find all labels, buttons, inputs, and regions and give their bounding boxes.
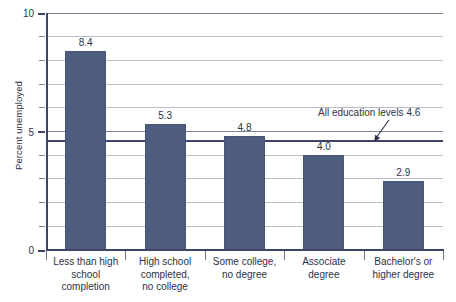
y-tick-4 — [39, 155, 45, 156]
x-tick — [443, 251, 444, 260]
bar — [303, 155, 344, 250]
y-tick-label-5: 5 — [0, 126, 34, 137]
y-tick-8 — [39, 60, 45, 61]
category-label-line: Bachelor's or — [364, 256, 443, 269]
y-tick-0 — [38, 250, 45, 252]
bar — [383, 181, 424, 250]
y-tick-label-10: 10 — [0, 8, 34, 19]
bar-value-label: 5.3 — [135, 110, 195, 121]
category-label: Some college,no degree — [205, 256, 284, 281]
category-label-line: Less than high — [46, 256, 125, 269]
category-label-line: no college — [125, 281, 204, 294]
category-label-line: Associate — [284, 256, 363, 269]
category-label: High schoolcompleted,no college — [125, 256, 204, 294]
category-label: Associatedegree — [284, 256, 363, 281]
category-label-line: degree — [284, 269, 363, 282]
y-tick-6 — [39, 107, 45, 108]
category-label-line: higher degree — [364, 269, 443, 282]
category-label: Less than highschoolcompletion — [46, 256, 125, 294]
y-tick-5 — [38, 131, 45, 133]
bar-value-label: 4.8 — [215, 122, 275, 133]
bar — [65, 51, 106, 250]
y-tick-label-0: 0 — [0, 245, 34, 256]
y-tick-10 — [38, 13, 45, 15]
x-axis-line — [46, 249, 444, 251]
annotation-arrow-icon — [372, 120, 392, 142]
category-label-line: completed, — [125, 269, 204, 282]
reference-line-annotation: All education levels 4.6 — [318, 107, 420, 118]
bar-value-label: 8.4 — [56, 37, 116, 48]
bar — [145, 124, 186, 250]
category-label-line: High school — [125, 256, 204, 269]
category-label-line: no degree — [205, 269, 284, 282]
bar-value-label: 4.0 — [294, 141, 354, 152]
y-axis-line — [46, 13, 48, 251]
bar — [224, 136, 265, 250]
y-tick-9 — [39, 36, 45, 37]
bar-chart: Percent unemployed 0510 Less than highsc… — [0, 0, 456, 302]
category-label-line: Some college, — [205, 256, 284, 269]
bar-value-label: 2.9 — [373, 167, 433, 178]
category-label: Bachelor's orhigher degree — [364, 256, 443, 281]
y-tick-7 — [39, 84, 45, 85]
y-tick-2 — [39, 202, 45, 203]
y-tick-3 — [39, 178, 45, 179]
category-label-line: school — [46, 269, 125, 282]
y-tick-1 — [39, 226, 45, 227]
category-label-line: completion — [46, 281, 125, 294]
gridline-10 — [46, 13, 443, 14]
